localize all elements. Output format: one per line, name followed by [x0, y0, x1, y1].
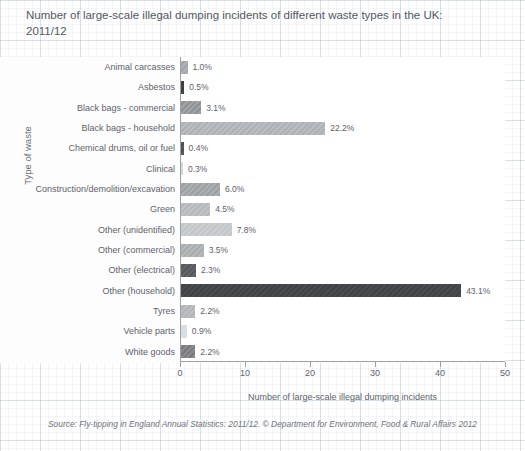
x-tick: [505, 362, 506, 367]
bar-row: Black bags - household22.2%: [0, 118, 521, 138]
bar[interactable]: [181, 142, 184, 155]
bar-value-label: 2.2%: [200, 347, 219, 357]
category-label: Other (unidentified): [0, 225, 175, 235]
category-label: Other (commercial): [0, 245, 175, 255]
bar-row: Asbestos0.5%: [0, 77, 521, 97]
bar-value-label: 3.1%: [206, 103, 225, 113]
bar[interactable]: [181, 61, 188, 74]
bar[interactable]: [181, 162, 183, 175]
bar-row: Other (household)43.1%: [0, 281, 521, 301]
bar[interactable]: [181, 305, 195, 318]
x-axis-title: Number of large-scale illegal dumping in…: [180, 392, 505, 402]
bar-row: Green4.5%: [0, 199, 521, 219]
bar-wrapper: 43.1%: [181, 281, 490, 301]
bar-wrapper: 0.5%: [181, 77, 209, 97]
bar[interactable]: [181, 284, 461, 297]
bar-wrapper: 3.1%: [181, 98, 226, 118]
x-tick: [440, 362, 441, 367]
bar-row: Clinical0.3%: [0, 159, 521, 179]
bar-value-label: 7.8%: [237, 225, 256, 235]
x-tick-label: 40: [420, 368, 460, 378]
category-label: Other (household): [0, 286, 175, 296]
x-tick-label: 10: [225, 368, 265, 378]
bar[interactable]: [181, 81, 184, 94]
bar[interactable]: [181, 345, 195, 358]
category-label: Black bags - commercial: [0, 103, 175, 113]
bar-row: Other (electrical)2.3%: [0, 260, 521, 280]
category-label: Vehicle parts: [0, 326, 175, 336]
category-label: Chemical drums, oil or fuel: [0, 143, 175, 153]
bar[interactable]: [181, 122, 325, 135]
category-label: Asbestos: [0, 82, 175, 92]
x-tick-label: 50: [485, 368, 525, 378]
bar-value-label: 0.3%: [188, 164, 207, 174]
category-label: Black bags - household: [0, 123, 175, 133]
x-tick-label: 0: [160, 368, 200, 378]
bar[interactable]: [181, 264, 196, 277]
bar-wrapper: 3.5%: [181, 240, 228, 260]
category-label: Construction/demolition/excavation: [0, 184, 175, 194]
x-tick-label: 30: [355, 368, 395, 378]
bar[interactable]: [181, 101, 201, 114]
bar-row: Animal carcasses1.0%: [0, 57, 521, 77]
bar[interactable]: [181, 244, 204, 257]
source-note: Source: Fly-tipping in England Annual St…: [48, 419, 508, 429]
bar-wrapper: 7.8%: [181, 220, 256, 240]
bar-rows: Animal carcasses1.0%Asbestos0.5%Black ba…: [0, 57, 521, 362]
bar-value-label: 0.5%: [189, 82, 208, 92]
x-axis-tick-labels: 01020304050: [0, 368, 521, 382]
bar-row: Black bags - commercial3.1%: [0, 98, 521, 118]
x-tick: [310, 362, 311, 367]
bar-wrapper: 4.5%: [181, 199, 235, 219]
bar-wrapper: 0.3%: [181, 159, 207, 179]
category-label: Other (electrical): [0, 265, 175, 275]
bar-wrapper: 0.4%: [181, 138, 208, 158]
bar-wrapper: 6.0%: [181, 179, 244, 199]
bar-wrapper: 2.3%: [181, 260, 220, 280]
bar-row: Tyres2.2%: [0, 301, 521, 321]
x-tick-label: 20: [290, 368, 330, 378]
bar-wrapper: 22.2%: [181, 118, 354, 138]
bar-wrapper: 2.2%: [181, 301, 220, 321]
bar-value-label: 1.0%: [193, 62, 212, 72]
x-tick: [180, 362, 181, 367]
bar-row: Chemical drums, oil or fuel0.4%: [0, 138, 521, 158]
x-tick: [245, 362, 246, 367]
bar-value-label: 6.0%: [225, 184, 244, 194]
bar-wrapper: 1.0%: [181, 57, 212, 77]
bar-value-label: 0.4%: [189, 143, 208, 153]
bar[interactable]: [181, 325, 187, 338]
bar[interactable]: [181, 203, 210, 216]
bar-value-label: 43.1%: [466, 286, 490, 296]
x-tick: [375, 362, 376, 367]
bar-wrapper: 0.9%: [181, 321, 211, 341]
category-label: Green: [0, 204, 175, 214]
bar-row: White goods2.2%: [0, 342, 521, 362]
category-label: White goods: [0, 347, 175, 357]
bar-value-label: 2.2%: [200, 306, 219, 316]
bar-row: Other (unidentified)7.8%: [0, 220, 521, 240]
category-label: Tyres: [0, 306, 175, 316]
bar-wrapper: 2.2%: [181, 342, 220, 362]
bar-value-label: 2.3%: [201, 265, 220, 275]
bar-row: Vehicle parts0.9%: [0, 321, 521, 341]
bar-value-label: 0.9%: [192, 326, 211, 336]
bar-row: Other (commercial)3.5%: [0, 240, 521, 260]
bar[interactable]: [181, 223, 232, 236]
bar-value-label: 4.5%: [215, 204, 234, 214]
chart-title: Number of large-scale illegal dumping in…: [26, 8, 446, 39]
category-label: Clinical: [0, 164, 175, 174]
bar-row: Construction/demolition/excavation6.0%: [0, 179, 521, 199]
bar[interactable]: [181, 183, 220, 196]
bar-value-label: 22.2%: [330, 123, 354, 133]
bar-value-label: 3.5%: [209, 245, 228, 255]
category-label: Animal carcasses: [0, 62, 175, 72]
